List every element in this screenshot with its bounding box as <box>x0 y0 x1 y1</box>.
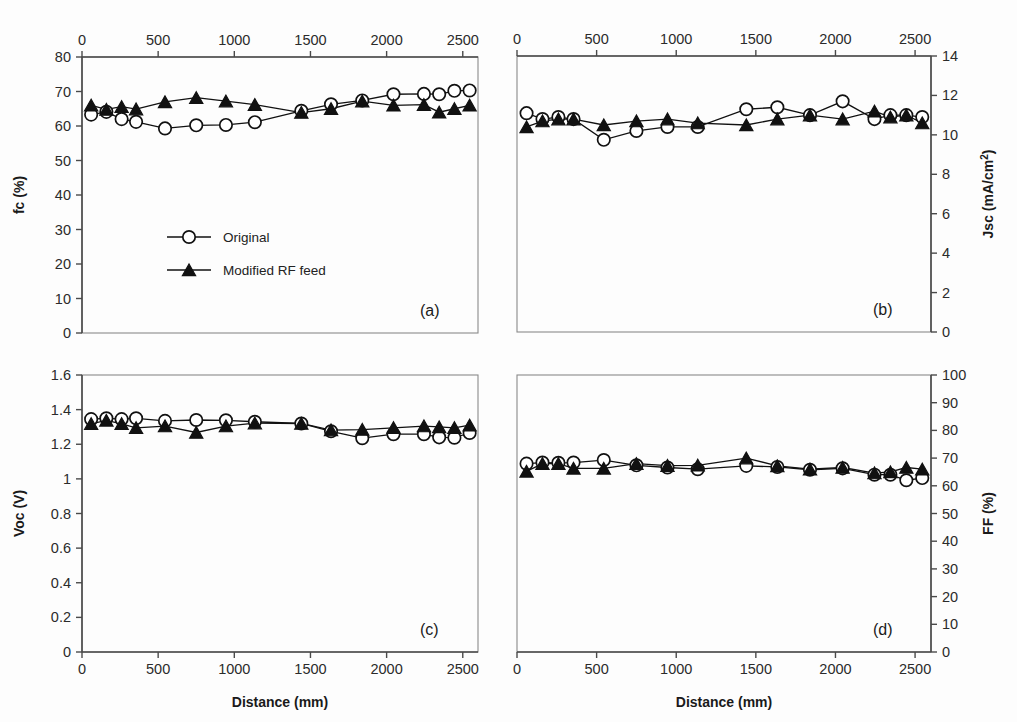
data-point-original[interactable] <box>249 116 261 128</box>
data-point-original[interactable] <box>448 85 460 97</box>
y-tick-label: 14 <box>942 48 958 64</box>
x-tick-label: 2500 <box>447 661 479 677</box>
figure-canvas: 0500100015002000250001020304050607080fc … <box>0 0 1017 722</box>
y-tick-label: 60 <box>55 118 71 134</box>
y-tick-label: 0.6 <box>51 540 71 556</box>
data-point-modified-rf-feed[interactable] <box>740 452 753 464</box>
data-point-original[interactable] <box>433 88 445 100</box>
y-tick-label: 1 <box>63 471 71 487</box>
y-tick-label: 30 <box>942 561 958 577</box>
y-tick-label: 0.2 <box>51 609 71 625</box>
data-point-modified-rf-feed[interactable] <box>463 419 476 431</box>
x-tick-label: 0 <box>513 661 521 677</box>
y-axis-title: FF (%) <box>980 492 996 535</box>
data-point-modified-rf-feed[interactable] <box>115 101 128 113</box>
legend-label: Modified RF feed <box>223 263 326 278</box>
x-tick-label: 2000 <box>370 32 402 48</box>
x-tick-label: 2500 <box>899 31 931 47</box>
x-axis-title: Distance (mm) <box>232 694 328 710</box>
x-tick-label: 1500 <box>294 32 326 48</box>
x-tick-label: 0 <box>78 661 86 677</box>
x-tick-label: 1000 <box>218 661 250 677</box>
y-tick-label: 8 <box>942 166 950 182</box>
plot-frame <box>517 56 931 332</box>
data-point-original[interactable] <box>771 101 783 113</box>
panel-tag: (d) <box>873 621 893 638</box>
data-point-original[interactable] <box>900 474 912 486</box>
y-tick-label: 0 <box>63 644 71 660</box>
x-tick-label: 2000 <box>819 661 851 677</box>
x-tick-label: 1500 <box>740 661 772 677</box>
y-tick-label: 100 <box>942 367 966 383</box>
y-tick-label: 80 <box>55 49 71 65</box>
data-point-original[interactable] <box>115 113 127 125</box>
x-axis-title: Distance (mm) <box>676 694 772 710</box>
x-tick-label: 0 <box>513 31 521 47</box>
y-tick-label: 0 <box>942 644 950 660</box>
y-tick-label: 12 <box>942 87 958 103</box>
legend-entry-original: Original <box>167 230 270 245</box>
y-tick-label: 0 <box>942 324 950 340</box>
x-tick-label: 2000 <box>819 31 851 47</box>
y-tick-label: 10 <box>942 127 958 143</box>
y-tick-label: 20 <box>55 256 71 272</box>
y-tick-label: 50 <box>942 506 958 522</box>
data-point-modified-rf-feed[interactable] <box>433 106 446 118</box>
data-point-original[interactable] <box>159 122 171 134</box>
x-tick-label: 1000 <box>660 31 692 47</box>
y-tick-label: 60 <box>942 478 958 494</box>
x-tick-label: 0 <box>78 32 86 48</box>
data-point-modified-rf-feed[interactable] <box>85 99 98 111</box>
y-tick-label: 2 <box>942 285 950 301</box>
y-tick-label: 40 <box>942 533 958 549</box>
four-panel-line-chart: 0500100015002000250001020304050607080fc … <box>0 0 1017 722</box>
x-tick-label: 500 <box>585 31 609 47</box>
y-tick-label: 90 <box>942 395 958 411</box>
panel-c: 0500100015002000250000.20.40.60.811.21.4… <box>11 367 479 710</box>
series-line-modified-rf-feed <box>527 458 923 473</box>
data-point-modified-rf-feed[interactable] <box>190 426 203 438</box>
data-point-original[interactable] <box>836 95 848 107</box>
data-point-modified-rf-feed[interactable] <box>448 103 461 115</box>
y-tick-label: 6 <box>942 206 950 222</box>
x-tick-label: 500 <box>146 661 170 677</box>
y-tick-label: 50 <box>55 153 71 169</box>
legend-marker-open-circle <box>183 231 195 243</box>
panel-d: 0500100015002000250001020304050607080901… <box>513 367 996 710</box>
data-point-original[interactable] <box>190 414 202 426</box>
panel-tag: (b) <box>873 301 893 318</box>
x-tick-label: 2000 <box>370 661 402 677</box>
y-tick-label: 0.4 <box>51 575 71 591</box>
data-point-original[interactable] <box>520 107 532 119</box>
x-tick-label: 1500 <box>740 31 772 47</box>
series-line-original <box>91 418 469 438</box>
x-tick-label: 500 <box>146 32 170 48</box>
legend-label: Original <box>223 230 270 245</box>
series-line-modified-rf-feed <box>91 98 469 113</box>
y-tick-label: 0.8 <box>51 506 71 522</box>
y-axis-title: fc (%) <box>11 176 27 214</box>
y-tick-label: 70 <box>942 450 958 466</box>
data-point-modified-rf-feed[interactable] <box>868 105 881 117</box>
data-point-original[interactable] <box>463 84 475 96</box>
data-point-original[interactable] <box>598 134 610 146</box>
y-tick-label: 1.4 <box>51 402 71 418</box>
data-point-modified-rf-feed[interactable] <box>190 92 203 104</box>
panel-b: 0500100015002000250002468101214Jsc (mA/c… <box>513 31 996 340</box>
data-point-original[interactable] <box>220 119 232 131</box>
data-point-original[interactable] <box>740 103 752 115</box>
y-tick-label: 1.2 <box>51 436 71 452</box>
series-line-modified-rf-feed <box>527 111 923 127</box>
panel-tag: (a) <box>420 302 440 319</box>
data-point-modified-rf-feed[interactable] <box>520 121 533 133</box>
data-point-original[interactable] <box>190 119 202 131</box>
y-tick-label: 70 <box>55 84 71 100</box>
panel-tag: (c) <box>420 621 439 638</box>
y-axis-title: Jsc (mA/cm2) <box>979 150 997 239</box>
y-tick-label: 10 <box>942 616 958 632</box>
data-point-modified-rf-feed[interactable] <box>463 99 476 111</box>
data-point-original[interactable] <box>130 116 142 128</box>
y-tick-label: 10 <box>55 291 71 307</box>
series-line-original <box>527 101 923 139</box>
y-tick-label: 0 <box>63 325 71 341</box>
